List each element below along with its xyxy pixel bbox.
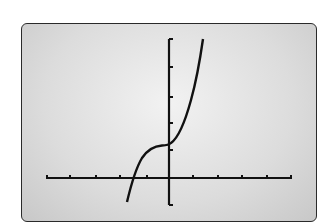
graph-plot: [0, 0, 329, 224]
